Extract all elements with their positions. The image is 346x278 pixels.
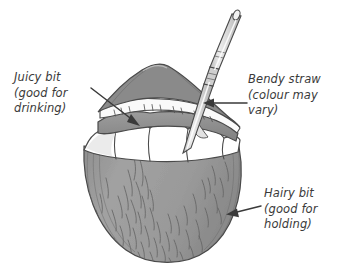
straw-bendy-joint [204, 67, 219, 86]
label-juicy-bit-line2: (good for [14, 86, 68, 100]
label-bendy-straw-line3: vary) [248, 103, 278, 117]
label-hairy-bit-line1: Hairy bit [264, 186, 314, 200]
label-hairy-bit-line3: holding) [264, 217, 312, 231]
coconut-illustration [0, 0, 346, 278]
label-hairy-bit-line2: (good for [264, 202, 318, 216]
label-juicy-bit: Juicy bit (good for drinking) [14, 70, 68, 117]
label-bendy-straw-line1: Bendy straw [248, 72, 321, 86]
label-juicy-bit-line3: drinking) [14, 101, 66, 115]
label-bendy-straw: Bendy straw (colour may vary) [248, 72, 321, 119]
label-bendy-straw-line2: (colour may [248, 88, 318, 102]
label-juicy-bit-line1: Juicy bit [14, 70, 61, 84]
coconut-diagram: Juicy bit (good for drinking) Bendy stra… [0, 0, 346, 278]
label-hairy-bit: Hairy bit (good for holding) [264, 186, 318, 233]
